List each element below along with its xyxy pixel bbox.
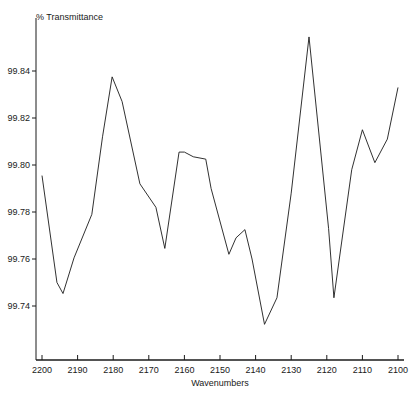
y-tick-label: 99.84 — [7, 66, 30, 76]
x-axis-title: Wavenumbers — [191, 378, 249, 388]
y-axis: 99.7499.7699.7899.8099.8299.84 — [7, 18, 36, 360]
x-tick-label: 2190 — [68, 365, 88, 375]
y-tick-label: 99.78 — [7, 207, 30, 217]
x-tick-label: 2170 — [139, 365, 159, 375]
x-tick-label: 2130 — [281, 365, 301, 375]
spectrum-line — [42, 37, 398, 324]
y-tick-label: 99.74 — [7, 301, 30, 311]
x-tick-label: 2180 — [103, 365, 123, 375]
transmittance-chart: 99.7499.7699.7899.8099.8299.84 220021902… — [0, 0, 413, 408]
x-tick-label: 2100 — [388, 365, 408, 375]
x-tick-label: 2120 — [317, 365, 337, 375]
y-axis-title: % Transmittance — [36, 12, 103, 22]
x-tick-label: 2110 — [353, 365, 372, 375]
y-tick-label: 99.82 — [7, 113, 30, 123]
spectrum-plot: 99.7499.7699.7899.8099.8299.84 220021902… — [0, 0, 413, 408]
y-tick-label: 99.76 — [7, 254, 30, 264]
x-tick-label: 2150 — [210, 365, 230, 375]
x-tick-label: 2160 — [174, 365, 194, 375]
x-tick-label: 2200 — [32, 365, 52, 375]
x-tick-label: 2140 — [246, 365, 266, 375]
y-tick-label: 99.80 — [7, 160, 30, 170]
x-axis: 2200219021802170216021502140213021202110… — [32, 355, 408, 375]
data-series-group — [42, 37, 398, 324]
